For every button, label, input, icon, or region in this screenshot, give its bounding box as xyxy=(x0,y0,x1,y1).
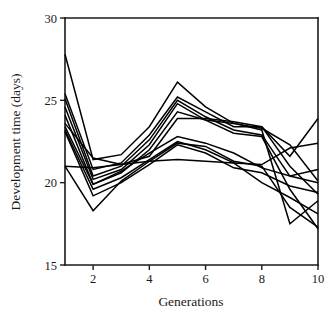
x-tick-label: 10 xyxy=(312,272,325,286)
y-tick-label: 20 xyxy=(45,176,58,190)
development-time-line-chart: 15202530 246810 Development time (days) … xyxy=(0,0,335,324)
x-tick-label: 8 xyxy=(259,272,265,286)
figure-container: 15202530 246810 Development time (days) … xyxy=(0,0,335,324)
series-layer xyxy=(65,54,318,229)
y-axis-ticks: 15202530 xyxy=(45,12,66,273)
y-tick-label: 15 xyxy=(45,259,58,273)
x-axis-title: Generations xyxy=(158,294,223,309)
x-tick-label: 2 xyxy=(90,272,96,286)
y-axis-title: Development time (days) xyxy=(8,73,23,210)
x-tick-label: 6 xyxy=(202,272,208,286)
x-axis-ticks: 246810 xyxy=(90,265,324,286)
x-tick-label: 4 xyxy=(146,272,153,286)
series-replicate-9 xyxy=(65,132,318,196)
y-tick-label: 30 xyxy=(45,12,58,26)
y-tick-label: 25 xyxy=(45,94,58,108)
plot-frame xyxy=(65,18,318,265)
